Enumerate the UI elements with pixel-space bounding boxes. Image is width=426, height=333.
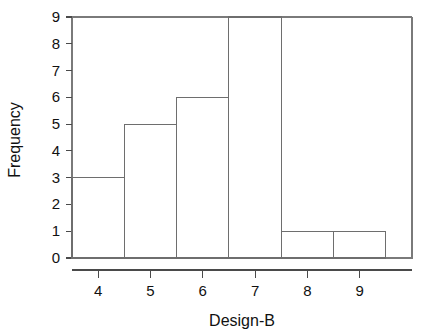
y-axis-title: Frequency bbox=[6, 102, 23, 178]
y-tick-label: 3 bbox=[52, 169, 60, 186]
x-tick-label: 6 bbox=[199, 282, 207, 299]
histogram-bar bbox=[281, 231, 333, 258]
y-tick-label: 7 bbox=[52, 62, 60, 79]
histogram-bar bbox=[72, 178, 124, 258]
x-tick-label: 5 bbox=[146, 282, 154, 299]
y-tick-label: 6 bbox=[52, 88, 60, 105]
y-tick-label: 2 bbox=[52, 195, 60, 212]
histogram-bar bbox=[334, 231, 386, 258]
y-tick-label: 9 bbox=[52, 8, 60, 25]
histogram-bar bbox=[177, 97, 229, 258]
x-tick-label: 8 bbox=[303, 282, 311, 299]
histogram-bars bbox=[72, 17, 386, 258]
y-tick-label: 5 bbox=[52, 115, 60, 132]
x-axis-tick-marks bbox=[98, 270, 360, 278]
y-axis-tick-marks bbox=[66, 17, 72, 258]
x-axis-tick-labels: 456789 bbox=[94, 282, 364, 299]
histogram-bar bbox=[124, 124, 176, 258]
x-axis-title: Design-B bbox=[209, 312, 275, 329]
x-tick-label: 4 bbox=[94, 282, 102, 299]
chart-canvas: 0123456789 456789 Design-B Frequency bbox=[0, 0, 426, 333]
y-tick-label: 4 bbox=[52, 142, 60, 159]
histogram-chart: 0123456789 456789 Design-B Frequency bbox=[0, 0, 426, 333]
x-tick-label: 7 bbox=[251, 282, 259, 299]
y-tick-label: 8 bbox=[52, 35, 60, 52]
y-tick-label: 1 bbox=[52, 222, 60, 239]
histogram-bar bbox=[229, 17, 281, 258]
y-axis-tick-labels: 0123456789 bbox=[52, 8, 60, 266]
y-tick-label: 0 bbox=[52, 249, 60, 266]
x-tick-label: 9 bbox=[356, 282, 364, 299]
